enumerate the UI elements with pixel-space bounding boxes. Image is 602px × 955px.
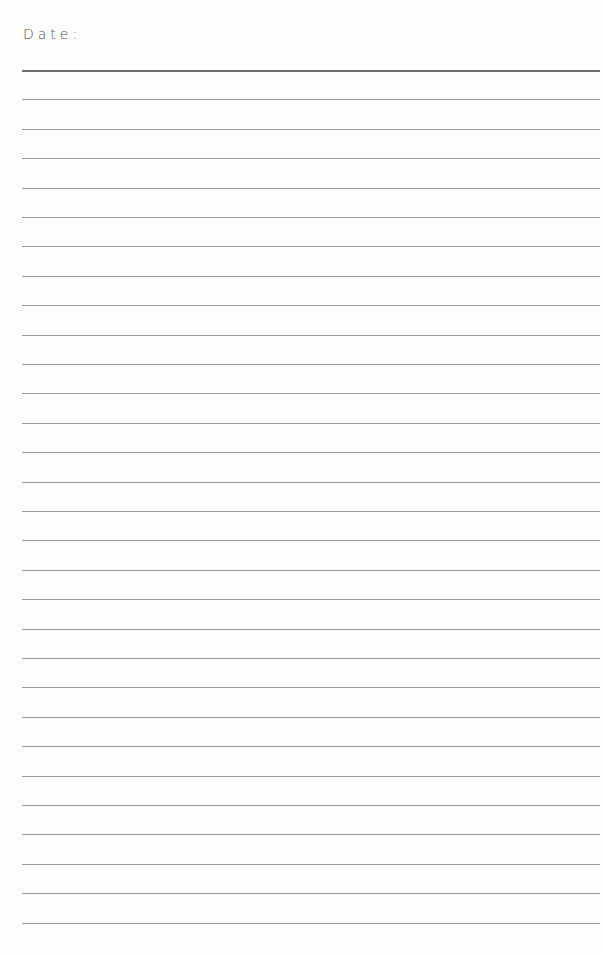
ruled-line bbox=[22, 923, 600, 924]
ruled-line bbox=[22, 746, 600, 747]
ruled-line bbox=[22, 276, 600, 277]
ruled-line bbox=[22, 70, 600, 72]
ruled-line bbox=[22, 129, 600, 130]
ruled-line bbox=[22, 834, 600, 835]
ruled-line bbox=[22, 99, 600, 100]
ruled-line bbox=[22, 511, 600, 512]
ruled-line bbox=[22, 540, 600, 541]
ruled-line bbox=[22, 482, 600, 483]
ruled-line bbox=[22, 570, 600, 571]
ruled-line bbox=[22, 393, 600, 394]
ruled-line bbox=[22, 629, 600, 630]
ruled-line bbox=[22, 893, 600, 894]
ruled-line bbox=[22, 717, 600, 718]
ruled-line bbox=[22, 452, 600, 453]
ruled-line bbox=[22, 658, 600, 659]
ruled-line bbox=[22, 864, 600, 865]
ruled-line bbox=[22, 805, 600, 806]
ruled-line bbox=[22, 599, 600, 600]
ruled-line bbox=[22, 423, 600, 424]
ruled-line bbox=[22, 217, 600, 218]
ruled-line bbox=[22, 364, 600, 365]
ruled-line bbox=[22, 305, 600, 306]
ruled-line bbox=[22, 188, 600, 189]
date-label: Date: bbox=[23, 26, 81, 42]
ruled-line bbox=[22, 776, 600, 777]
ruled-line bbox=[22, 158, 600, 159]
ruled-line bbox=[22, 687, 600, 688]
ruled-line bbox=[22, 335, 600, 336]
ruled-line bbox=[22, 246, 600, 247]
